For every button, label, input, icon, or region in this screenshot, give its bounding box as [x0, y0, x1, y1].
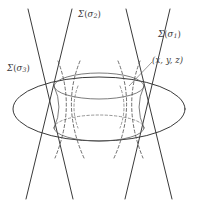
sigma-2-label: Σ(σ2): [78, 10, 101, 20]
hidden-ruling-curves-group: [55, 61, 143, 158]
bottom-rim-group: [54, 115, 144, 141]
ruling-line-left-b: [26, 9, 72, 199]
outer-plane-ellipse: [13, 77, 185, 141]
sigma-2-label-close: ): [98, 9, 101, 19]
sigma-3-label-close: ): [27, 63, 30, 73]
outer-plane-ellipse-group: [13, 77, 185, 141]
hyperboloid-figure: Σ(σ2) Σ(σ1) Σ(σ3) (x, y, z): [0, 0, 198, 206]
profile-curve-left-inner: [74, 86, 78, 128]
hidden-ruling-right-back: [132, 61, 143, 158]
profile-curve-right-inner: [120, 86, 124, 128]
sigma-3-label: Σ(σ3): [7, 64, 30, 74]
bottom-rim-back-arc: [54, 115, 144, 128]
point-coordinates-label: (x, y, z): [152, 56, 183, 65]
sigma-1-label-close: ): [178, 29, 181, 39]
hidden-ruling-left-back: [55, 61, 66, 158]
ruling-lines-group: [26, 9, 172, 199]
sigma-1-label: Σ(σ1): [158, 30, 181, 40]
surface-profile-curves-group: [54, 86, 144, 128]
top-rim-front-arc: [54, 86, 144, 99]
